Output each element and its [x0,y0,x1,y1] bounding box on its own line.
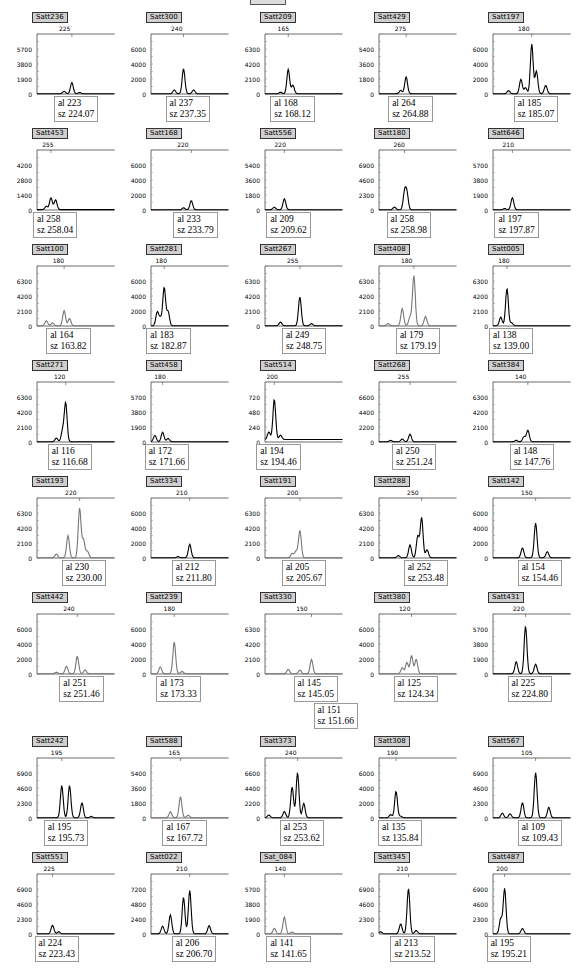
y-tick-label: 4200 [466,293,488,300]
allele-value: al 138 [493,330,529,341]
allele-value: al 154 [522,562,558,573]
y-tick-label: 2100 [10,424,32,431]
y-tick-label: 4200 [10,525,32,532]
y-tick-label: 240 [238,424,260,431]
allele-value: al 173 [160,678,196,689]
size-value: sz 124.34 [398,689,434,700]
allele-value: al 194 [260,446,296,457]
allele-callout: al 195sz 195.73 [44,820,88,846]
size-value: sz 182.87 [150,341,186,352]
y-tick-label: 4200 [352,293,374,300]
y-tick-label: 0 [124,555,146,562]
allele-callout: al 225sz 224.80 [508,676,552,702]
y-tick-label: 1900 [466,656,488,663]
size-value: sz 141.65 [270,949,306,960]
y-tick-label: 480 [238,409,260,416]
size-label: 255 [398,373,409,380]
y-tick-label: 4000 [124,61,146,68]
y-tick-label: 6300 [352,510,374,517]
y-tick-label: 2300 [466,800,488,807]
trace-plot [379,150,441,210]
y-tick-label: 7200 [124,886,146,893]
y-tick-label: 0 [10,207,32,214]
chart-panel-satt209: Satt2091656300420021000al 168sz 168.12 [238,12,353,127]
size-value: sz 205.67 [286,573,322,584]
y-tick-label: 0 [238,323,260,330]
y-tick-label: 6000 [124,510,146,517]
marker-label: Satt429 [374,12,410,23]
size-label: 255 [42,141,53,148]
size-value: sz 253.48 [408,573,444,584]
size-label: 140 [515,373,526,380]
trace-plot [493,758,555,818]
allele-callout: al 194sz 194.46 [256,444,300,470]
y-tick-label: 0 [352,931,374,938]
y-tick-label: 0 [10,323,32,330]
allele-value: al 223 [58,98,94,109]
allele-callout: al 209sz 209.62 [266,212,310,238]
y-tick-label: 2200 [352,424,374,431]
marker-label: Satt308 [374,736,410,747]
y-tick-label: 4600 [466,785,488,792]
y-tick-label: 0 [10,815,32,822]
trace-plot [379,614,441,674]
y-tick-label: 0 [352,207,374,214]
allele-callout: al 258sz 258.98 [387,212,431,238]
y-tick-label: 5700 [124,394,146,401]
size-value: sz 116.68 [52,457,88,468]
allele-callout: al 212sz 211.80 [172,560,216,586]
y-tick-label: 4200 [238,293,260,300]
y-tick-label: 3800 [10,61,32,68]
chart-panel-satt408: Satt4081806300420021000al 179sz 179.19 [352,244,467,359]
trace-plot [151,150,213,210]
allele-callout: al 116sz 116.68 [48,444,92,470]
y-tick-label: 720 [238,394,260,401]
size-label: 180 [401,257,412,264]
y-tick-label: 0 [352,323,374,330]
y-tick-label: 2100 [466,308,488,315]
size-value: sz 154.46 [522,573,558,584]
allele-value: al 253 [284,822,320,833]
trace-plot [379,266,441,326]
marker-label: Satt458 [146,360,182,371]
size-value: sz 211.80 [176,573,212,584]
y-tick-label: 4800 [124,901,146,908]
allele-value: al 164 [50,330,86,341]
marker-label: Satt442 [32,592,68,603]
allele-value: al 212 [176,562,212,573]
y-tick-label: 0 [10,671,32,678]
trace-plot [379,382,441,442]
y-tick-label: 6300 [238,510,260,517]
allele-value: al 252 [408,562,444,573]
allele-callout: al 206sz 206.70 [172,936,216,962]
y-tick-label: 6000 [352,770,374,777]
trace-plot [379,758,441,818]
trace-plot [37,34,99,94]
allele-callout: al 195sz 195.21 [487,936,531,962]
y-tick-label: 4200 [238,61,260,68]
chart-panel-satt236: Satt2362255700380019000al 223sz 224.07 [10,12,125,127]
y-tick-label: 6300 [10,510,32,517]
y-tick-label: 2000 [124,76,146,83]
marker-label: Satt384 [488,360,524,371]
size-label: 220 [177,141,188,148]
y-tick-label: 2000 [124,192,146,199]
trace-plot [37,266,99,326]
y-tick-label: 3800 [466,177,488,184]
y-tick-label: 2000 [124,308,146,315]
y-tick-label: 0 [466,815,488,822]
allele-callout: al 168sz 168.12 [270,96,314,122]
chart-panel-satt429: Satt4292755400360018000al 264sz 264.88 [352,12,467,127]
allele-value: al 205 [286,562,322,573]
allele-value: al 233 [177,214,213,225]
allele-value: al 195 [491,938,527,949]
y-tick-label: 4600 [10,785,32,792]
y-tick-label: 6000 [124,162,146,169]
allele-callout: al 135sz 135.84 [378,820,422,846]
y-tick-label: 3600 [352,61,374,68]
size-label: 180 [518,25,529,32]
size-label: 275 [395,25,406,32]
allele-value: al 206 [176,938,212,949]
marker-label: Satt005 [488,244,524,255]
y-tick-label: 3800 [124,409,146,416]
